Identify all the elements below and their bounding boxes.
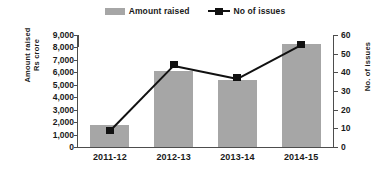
- y-axis-right-tick-label: 10: [341, 123, 350, 133]
- y-axis-right-tick: [334, 91, 338, 92]
- y-axis-left-tick-label: 9,000: [53, 30, 74, 40]
- y-axis-right-tick-label: 40: [341, 67, 350, 77]
- y-axis-right-tick-label: 0: [341, 142, 346, 152]
- y-axis-left-tick-label: 8,000: [53, 42, 74, 52]
- y-axis-right-tick: [334, 35, 338, 36]
- y-axis-left-tick: [74, 85, 78, 86]
- line-marker-2012-13: [170, 61, 178, 68]
- y-axis-left-tick: [74, 110, 78, 111]
- y-axis-left-tick-label: 6,000: [53, 67, 74, 77]
- y-axis-right-tick-label: 30: [341, 86, 350, 96]
- y-axis-right-tick-label: 60: [341, 30, 350, 40]
- y-axis-left-line: [77, 35, 78, 148]
- legend-label-amount-raised: Amount raised: [129, 6, 190, 16]
- y-axis-right-tick: [334, 147, 338, 148]
- bar-2013-14: [218, 80, 257, 147]
- y-axis-left-tick: [74, 135, 78, 136]
- plot-area: [78, 35, 333, 147]
- x-axis-line: [77, 147, 334, 148]
- y-axis-right-tick: [334, 72, 338, 73]
- y-axis-right-tick-label: 50: [341, 49, 350, 59]
- y-axis-left-tick-label: 5,000: [53, 80, 74, 90]
- x-axis-tick-label: 2014-15: [261, 152, 341, 162]
- y-axis-left-tick: [74, 72, 78, 73]
- y-axis-right-tick-labels: 0102030405060: [341, 35, 365, 147]
- chart-container: Amount raised No of issues Amount raised…: [0, 0, 390, 174]
- y-axis-left-title-line1: Amount raised: [23, 5, 32, 105]
- x-axis-tick: [78, 43, 79, 47]
- y-axis-left-tick-labels: 01,0002,0003,0004,0005,0006,0007,0008,00…: [34, 35, 74, 147]
- y-axis-left-tick-label: 7,000: [53, 55, 74, 65]
- y-axis-left-tick: [74, 47, 78, 48]
- chart-legend: Amount raised No of issues: [0, 6, 390, 16]
- y-axis-right-tick-label: 20: [341, 105, 350, 115]
- legend-label-no-of-issues: No of issues: [234, 6, 286, 16]
- line-marker-2011-12: [106, 127, 114, 134]
- bar-2012-13: [154, 71, 193, 147]
- y-axis-left-tick-label: 1,000: [53, 130, 74, 140]
- y-axis-left-tick: [74, 97, 78, 98]
- y-axis-left-tick: [74, 122, 78, 123]
- bar-swatch-icon: [105, 8, 125, 15]
- y-axis-left-tick: [74, 35, 78, 36]
- y-axis-left-tick-label: 4,000: [53, 92, 74, 102]
- legend-item-amount-raised: Amount raised: [105, 6, 190, 16]
- y-axis-right-tick: [334, 110, 338, 111]
- y-axis-left-tick-label: 3,000: [53, 105, 74, 115]
- bar-2014-15: [282, 44, 321, 147]
- line-marker-swatch-icon: [208, 7, 230, 16]
- y-axis-left-tick: [74, 147, 78, 148]
- y-axis-right-tick: [334, 128, 338, 129]
- y-axis-left-tick: [74, 60, 78, 61]
- line-marker-2014-15: [297, 41, 305, 48]
- legend-item-no-of-issues: No of issues: [208, 6, 286, 16]
- y-axis-left-tick-label: 2,000: [53, 117, 74, 127]
- y-axis-right-tick: [334, 54, 338, 55]
- line-marker-2013-14: [233, 74, 241, 81]
